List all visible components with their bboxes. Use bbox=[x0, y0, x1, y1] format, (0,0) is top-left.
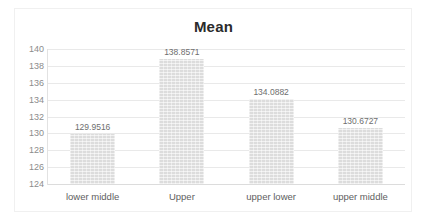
y-axis-tick-label: 126 bbox=[14, 163, 44, 172]
bar[interactable] bbox=[338, 128, 383, 184]
x-axis-category-labels: lower middleUpperupper lowerupper middle bbox=[48, 190, 405, 206]
x-axis-category-label: Upper bbox=[137, 190, 226, 203]
y-axis-tick-label: 124 bbox=[14, 180, 44, 189]
bar[interactable] bbox=[249, 99, 294, 184]
y-axis-tick-label: 134 bbox=[14, 96, 44, 105]
gridline bbox=[48, 184, 405, 185]
chart-title: Mean bbox=[0, 17, 427, 36]
plot-area: 129.9516138.8571134.0882130.6727 bbox=[48, 49, 405, 184]
x-axis-category-label: lower middle bbox=[48, 190, 137, 203]
bar-data-label: 129.9516 bbox=[53, 122, 133, 132]
bar[interactable] bbox=[70, 134, 115, 184]
y-axis-tick-label: 128 bbox=[14, 146, 44, 155]
chart-container: Mean 140138136134132130128126124 129.951… bbox=[0, 0, 427, 224]
y-axis-tick-label: 130 bbox=[14, 129, 44, 138]
bar[interactable] bbox=[159, 59, 204, 184]
x-axis-category-label: upper middle bbox=[316, 190, 405, 203]
bar-data-label: 138.8571 bbox=[142, 47, 222, 57]
y-axis-tick-labels: 140138136134132130128126124 bbox=[14, 49, 44, 184]
x-axis-category-label: upper lower bbox=[227, 190, 316, 203]
y-axis-tick-label: 140 bbox=[14, 45, 44, 54]
y-axis-tick-label: 136 bbox=[14, 79, 44, 88]
bar-data-label: 130.6727 bbox=[320, 116, 400, 126]
bar-data-label: 134.0882 bbox=[231, 87, 311, 97]
y-axis-tick-label: 132 bbox=[14, 113, 44, 122]
bars-layer: 129.9516138.8571134.0882130.6727 bbox=[48, 49, 405, 184]
y-axis-tick-label: 138 bbox=[14, 62, 44, 71]
